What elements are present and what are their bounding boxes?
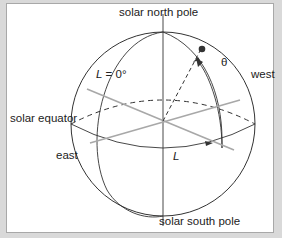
label-theta: θ xyxy=(221,57,227,69)
gray-axis-2 xyxy=(90,100,240,143)
label-east: east xyxy=(56,150,78,162)
gray-axis-1 xyxy=(87,89,234,150)
label-meridian-zero: L = 0° xyxy=(96,69,127,81)
meridian-point xyxy=(163,32,222,148)
label-longitude: L xyxy=(173,151,179,163)
label-north-pole: solar north pole xyxy=(119,7,198,19)
label-equator: solar equator xyxy=(10,113,77,125)
surface-point xyxy=(199,46,206,53)
label-west: west xyxy=(251,69,275,81)
label-south-pole: solar south pole xyxy=(159,216,240,228)
